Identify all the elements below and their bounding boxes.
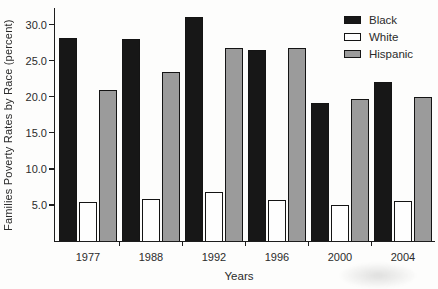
y-tick-mark [49,204,55,205]
y-tick-mark [49,96,55,97]
bar-black-2000 [311,103,329,242]
bar-black-1988 [122,39,140,241]
bar-black-1977 [59,38,77,241]
x-tick-mark [182,241,183,246]
legend-label: White [369,31,398,43]
y-tick-label: 20.0 [9,91,47,103]
legend-swatch-white [344,33,361,41]
legend-swatch-hispanic [344,50,361,58]
bar-group-2000 [311,99,369,241]
figure-root: Families Poverty Rates by Race (percent)… [0,0,438,289]
x-tick-mark [119,241,120,246]
bar-group-1996 [248,48,306,241]
bar-white-1988 [142,199,160,241]
bar-black-1992 [185,17,203,241]
legend-item-hispanic: Hispanic [344,48,413,60]
x-tick-mark [371,241,372,246]
y-tick-mark [49,24,55,25]
x-tick-mark [308,241,309,246]
bar-group-1977 [59,38,117,241]
legend: BlackWhiteHispanic [344,14,413,60]
bar-white-1977 [79,202,97,241]
x-tick-mark [245,241,246,246]
y-tick-label: 15.0 [9,127,47,139]
bar-white-1992 [205,192,223,241]
y-tick-mark [49,132,55,133]
bar-black-2004 [374,82,392,241]
legend-label: Hispanic [369,48,413,60]
y-tick-mark [49,60,55,61]
y-tick-mark [49,168,55,169]
bar-hispanic-2000 [351,99,369,241]
x-category-label: 1988 [121,251,181,263]
x-category-label: 1996 [247,251,307,263]
bar-group-1992 [185,17,243,241]
y-tick-label: 30.0 [9,19,47,31]
scan-smudge [338,262,418,289]
y-tick-label: 5.0 [9,199,47,211]
bar-black-1996 [248,50,266,241]
y-tick-label: 10.0 [9,163,47,175]
bar-white-1996 [268,200,286,241]
bar-white-2000 [331,205,349,241]
x-category-label: 1992 [184,251,244,263]
bar-hispanic-1996 [288,48,306,241]
bar-group-2004 [374,82,432,241]
bar-hispanic-2004 [414,97,432,241]
bar-hispanic-1977 [99,90,117,241]
legend-item-white: White [344,31,413,43]
legend-item-black: Black [344,14,413,26]
bar-hispanic-1992 [225,48,243,241]
x-category-label: 1977 [58,251,118,263]
legend-label: Black [369,14,397,26]
bar-white-2004 [394,201,412,241]
legend-swatch-black [344,16,361,24]
y-tick-label: 25.0 [9,55,47,67]
bar-group-1988 [122,39,180,241]
bar-hispanic-1988 [162,72,180,241]
